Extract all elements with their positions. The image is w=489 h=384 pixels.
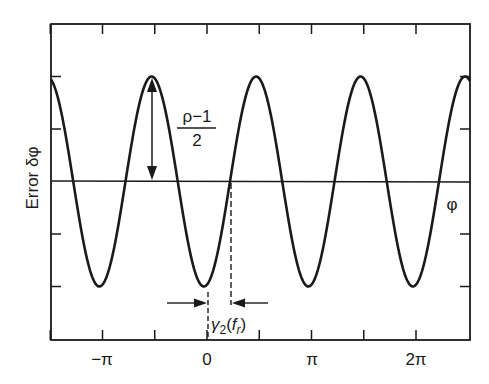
gamma-label: γ2(fr) <box>211 315 246 337</box>
amplitude-denominator: 2 <box>192 131 201 150</box>
x-tick-label-2pi: 2π <box>405 350 426 369</box>
x-tick-label-pi: π <box>306 350 318 369</box>
x-axis-symbol: φ <box>446 195 457 214</box>
arrow-down-icon <box>147 166 157 180</box>
x-tick-label-zero: 0 <box>202 350 211 369</box>
x-tick-label-neg-pi: −π <box>91 350 113 369</box>
arrow-left-icon <box>232 299 245 308</box>
y-axis-label: Error δφ <box>23 147 42 210</box>
arrow-right-icon <box>194 299 207 308</box>
chart-figure: ρ−1 2 γ2(fr) Error δφ φ −π 0 π 2π <box>0 0 489 384</box>
amplitude-arrow <box>147 78 157 180</box>
zero-line <box>51 181 470 182</box>
amplitude-label: ρ−1 2 <box>177 107 216 150</box>
amplitude-numerator: ρ−1 <box>182 107 211 126</box>
